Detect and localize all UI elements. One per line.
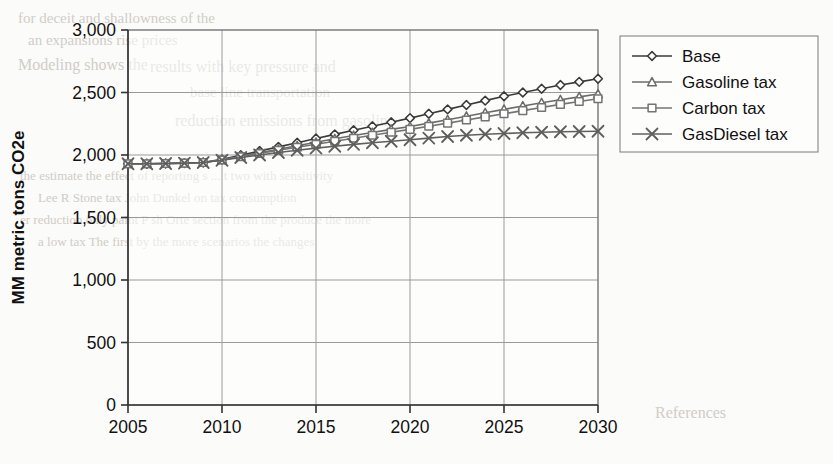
marker-square <box>538 104 546 112</box>
y-tick-label: 1,500 <box>72 208 116 228</box>
y-tick-label: 0 <box>106 395 116 415</box>
y-tick-label: 2,000 <box>72 145 116 165</box>
marker-square <box>444 119 452 127</box>
y-tick-label: 2,500 <box>72 83 116 103</box>
x-tick-label: 2030 <box>579 417 618 437</box>
x-tick-label: 2015 <box>297 417 336 437</box>
x-tick-label: 2005 <box>109 417 148 437</box>
marker-square <box>387 128 395 136</box>
marker-square <box>463 116 471 124</box>
y-tick-label: 500 <box>87 333 116 353</box>
emissions-line-chart: 3,0002,5002,0001,5001,000500020052010201… <box>0 0 833 464</box>
legend-label: Base <box>682 47 721 66</box>
legend: BaseGasoline taxCarbon taxGasDiesel tax <box>620 36 818 152</box>
y-tick-label: 1,000 <box>72 270 116 290</box>
marker-square <box>557 101 565 109</box>
legend-label: Carbon tax <box>682 99 766 118</box>
marker-square <box>648 104 656 112</box>
marker-square <box>425 122 433 130</box>
chart-canvas: 3,0002,5002,0001,5001,000500020052010201… <box>0 0 833 464</box>
marker-square <box>594 95 602 103</box>
legend-label: Gasoline tax <box>682 73 777 92</box>
marker-square <box>369 131 377 139</box>
marker-square <box>575 98 583 106</box>
x-tick-label: 2025 <box>485 417 524 437</box>
marker-square <box>481 113 489 121</box>
x-tick-label: 2010 <box>203 417 242 437</box>
marker-square <box>519 107 527 115</box>
marker-square <box>500 110 508 118</box>
marker-square <box>406 126 414 134</box>
x-tick-label: 2020 <box>391 417 430 437</box>
legend-label: GasDiesel tax <box>682 125 788 144</box>
y-axis-title: MM metric tons CO2e <box>9 131 28 305</box>
y-tick-label: 3,000 <box>72 20 116 40</box>
